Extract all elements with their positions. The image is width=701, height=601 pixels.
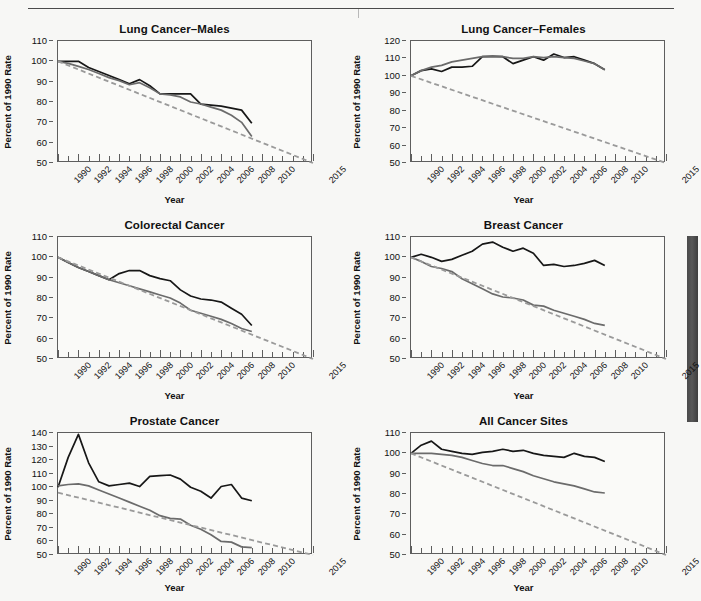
chart-title-lung-cancer-males: Lung Cancer–Males (0, 23, 349, 35)
y-tick-mark (49, 338, 53, 339)
x-tick-label: 1998 (153, 556, 174, 577)
series-layer-prostate-cancer (58, 433, 313, 555)
series-line-incidence-black-solid (58, 61, 252, 123)
y-tick-label: 110 (32, 35, 47, 46)
x-tick-label: 1996 (133, 556, 154, 577)
x-tick-label: 1992 (445, 360, 466, 381)
series-layer-lung-cancer-females (411, 41, 666, 163)
x-tick-label: 2002 (194, 164, 215, 185)
y-tick-label: 110 (32, 467, 47, 478)
y-tick-mark (49, 256, 53, 257)
y-tick-label: 80 (389, 104, 400, 115)
y-tick-label: 60 (389, 528, 400, 539)
y-tick-label: 110 (385, 52, 400, 63)
x-tick-label: 1994 (113, 556, 134, 577)
y-tick-label: 50 (36, 353, 47, 364)
x-tick-label: 1994 (113, 164, 134, 185)
x-tick-label: 2004 (215, 164, 236, 185)
x-tick-label: 1996 (486, 556, 507, 577)
y-tick-mark (49, 317, 53, 318)
x-tick-label: 1996 (133, 360, 154, 381)
y-tick-mark (402, 317, 406, 318)
y-tick-label: 90 (36, 494, 47, 505)
y-tick-mark (49, 513, 53, 514)
y-tick-label: 110 (32, 231, 47, 242)
y-tick-mark (402, 338, 406, 339)
y-tick-mark (402, 127, 406, 128)
chart-title-all-cancer-sites: All Cancer Sites (349, 415, 698, 427)
y-tick-mark (49, 540, 53, 541)
chart-title-colorectal-cancer: Colorectal Cancer (0, 219, 349, 231)
x-tick-label: 1994 (466, 360, 487, 381)
x-tick-label: 2006 (588, 360, 609, 381)
x-tick-label: 2010 (629, 164, 650, 185)
series-layer-colorectal-cancer (58, 237, 313, 359)
x-tick-label: 2010 (276, 556, 297, 577)
y-tick-label: 70 (389, 312, 400, 323)
x-tick-label: 2015 (680, 360, 701, 381)
y-tick-mark (402, 75, 406, 76)
y-tick-label: 100 (31, 251, 47, 262)
page-header-rule-tick (358, 9, 359, 18)
x-tick-label: 2000 (174, 556, 195, 577)
y-tick-label-group-lung-cancer-females: 5060708090100110120 (349, 40, 406, 162)
x-axis-title-breast-cancer: Year (349, 390, 698, 401)
y-tick-mark (402, 297, 406, 298)
y-tick-label: 100 (31, 481, 47, 492)
x-tick-label: 1998 (506, 164, 527, 185)
x-tick-label: 2010 (276, 360, 297, 381)
y-tick-label-group-lung-cancer-males: 5060708090100110 (0, 40, 53, 162)
y-tick-mark (402, 40, 406, 41)
series-line-incidence-black-solid (58, 257, 252, 325)
x-tick-label: 1992 (92, 556, 113, 577)
y-tick-label: 110 (385, 231, 400, 242)
x-tick-label: 2015 (327, 360, 348, 381)
y-tick-mark (402, 256, 406, 257)
x-tick-label: 2004 (568, 164, 589, 185)
series-line-target-trend-gray-dashed (411, 76, 666, 163)
x-tick-label: 2015 (327, 164, 348, 185)
x-tick-label: 1996 (133, 164, 154, 185)
x-tick-label: 1996 (486, 164, 507, 185)
y-tick-mark (402, 277, 406, 278)
y-tick-mark (49, 121, 53, 122)
series-line-target-trend-gray-dashed (411, 257, 666, 359)
plot-area-breast-cancer (410, 236, 665, 358)
y-tick-mark (49, 236, 53, 237)
x-tick-label: 2002 (194, 360, 215, 381)
x-tick-label: 1998 (153, 164, 174, 185)
plot-area-all-cancer-sites (410, 432, 665, 554)
y-tick-label: 70 (36, 116, 47, 127)
x-tick-label: 1998 (153, 360, 174, 381)
y-tick-mark (49, 446, 53, 447)
series-line-target-trend-gray-dashed (58, 493, 313, 555)
y-tick-label: 140 (31, 427, 47, 438)
y-tick-label: 70 (389, 508, 400, 519)
y-tick-label: 90 (36, 271, 47, 282)
series-layer-lung-cancer-males (58, 41, 313, 163)
y-tick-label: 80 (389, 292, 400, 303)
chart-title-prostate-cancer: Prostate Cancer (0, 415, 349, 427)
y-tick-mark (49, 459, 53, 460)
x-tick-label: 1994 (466, 164, 487, 185)
y-tick-mark (49, 60, 53, 61)
x-tick-label: 1990 (425, 360, 446, 381)
series-line-incidence-black-solid (58, 434, 252, 500)
y-tick-label: 90 (389, 271, 400, 282)
chart-panel-colorectal-cancer: Colorectal CancerPercent of 1990 Rate506… (0, 214, 349, 410)
y-tick-label: 120 (31, 454, 47, 465)
y-tick-mark (402, 432, 406, 433)
chart-panel-lung-cancer-males: Lung Cancer–MalesPercent of 1990 Rate506… (0, 18, 349, 214)
y-tick-label: 120 (384, 35, 400, 46)
plot-area-prostate-cancer (57, 432, 312, 554)
y-tick-mark (49, 358, 53, 359)
y-tick-label: 50 (389, 549, 400, 560)
y-tick-mark (402, 236, 406, 237)
x-tick-label: 2004 (568, 556, 589, 577)
y-tick-mark (402, 452, 406, 453)
y-tick-mark (49, 486, 53, 487)
x-tick-label: 2008 (608, 360, 629, 381)
series-line-target-trend-gray-dashed (58, 61, 313, 163)
y-tick-mark (402, 145, 406, 146)
series-layer-all-cancer-sites (411, 433, 666, 555)
